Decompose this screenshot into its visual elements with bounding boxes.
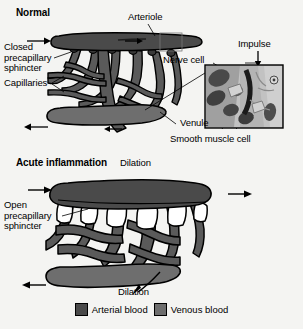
legend-arterial-label: Arterial blood bbox=[92, 304, 148, 315]
label-smooth-muscle-cell: Smooth muscle cell bbox=[170, 134, 251, 145]
legend-arterial-swatch bbox=[75, 303, 88, 316]
legend-venous: Venous blood bbox=[154, 303, 229, 316]
legend-arterial: Arterial blood bbox=[75, 303, 148, 316]
label-nerve-cell: Nerve cell bbox=[163, 55, 204, 66]
legend: Arterial blood Venous blood bbox=[0, 303, 303, 316]
inset-micrograph bbox=[204, 65, 283, 128]
label-closed-sphincter: Closed precapillary sphincter bbox=[4, 42, 51, 74]
normal-heading: Normal bbox=[16, 8, 50, 19]
label-arteriole: Arteriole bbox=[128, 12, 162, 23]
label-dilation-bottom: Dilation bbox=[118, 287, 149, 298]
label-capillaries: Capillaries bbox=[4, 78, 47, 89]
legend-venous-swatch bbox=[154, 303, 167, 316]
arteriole-dilated bbox=[50, 180, 211, 209]
label-venule: Venule bbox=[180, 118, 208, 129]
label-open-sphincter: Open precapillary sphincter bbox=[4, 200, 51, 232]
label-dilation-top: Dilation bbox=[120, 158, 151, 169]
label-impulse: Impulse bbox=[238, 39, 271, 50]
legend-venous-label: Venous blood bbox=[171, 304, 229, 315]
acute-heading: Acute inflammation bbox=[16, 158, 107, 169]
inset-content bbox=[204, 66, 282, 127]
